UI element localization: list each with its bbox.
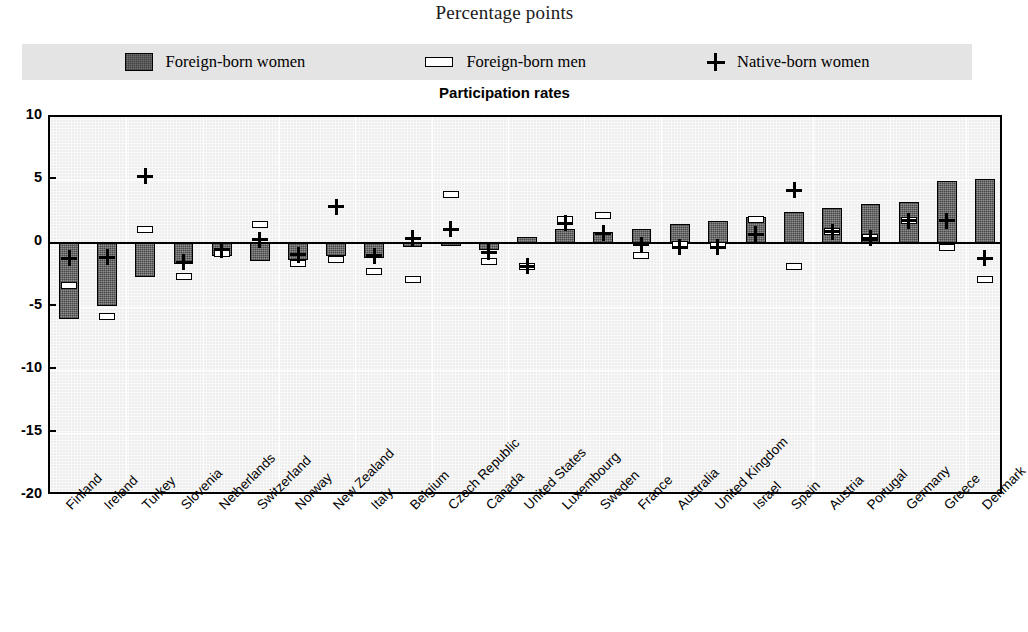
plus-marker-luxembourg	[557, 215, 573, 231]
dash-marker-finland	[61, 282, 77, 289]
chart-legend: Foreign-born womenForeign-born menNative…	[22, 44, 972, 80]
plus-marker-norway	[290, 247, 306, 263]
dash-marker-belgium	[405, 276, 421, 283]
dash-marker-sweden	[595, 212, 611, 219]
vertical-gridline	[966, 117, 967, 492]
horizontal-gridline	[50, 370, 1000, 371]
plus-marker-austria	[824, 224, 840, 240]
vertical-gridline	[890, 117, 891, 492]
filled-square-icon	[125, 53, 153, 71]
legend-item-label: Foreign-born women	[166, 52, 306, 72]
dash-marker-italy	[366, 268, 382, 275]
plus-marker-greece	[939, 213, 955, 229]
horizontal-gridline	[50, 180, 1000, 181]
unit-label: Percentage points	[0, 0, 1009, 26]
plus-marker-germany	[901, 213, 917, 229]
plus-marker-belgium	[405, 230, 421, 246]
plus-marker-denmark	[977, 250, 993, 266]
legend-item-1: Foreign-born men	[425, 52, 586, 72]
dash-marker-new-zealand	[328, 256, 344, 263]
y-tick-mark	[48, 367, 56, 369]
y-tick-label: -20	[0, 485, 42, 501]
y-tick-mark	[48, 430, 56, 432]
plus-marker-sweden	[595, 225, 611, 241]
bar-spain	[784, 212, 804, 244]
y-tick-mark	[48, 177, 56, 179]
vertical-gridline	[432, 117, 433, 492]
x-axis-labels: FinlandIrelandTurkeySloveniaNetherlandsS…	[48, 496, 1002, 626]
plus-marker-finland	[61, 250, 77, 266]
dash-marker-czech-republic	[443, 191, 459, 198]
plus-marker-australia	[672, 239, 688, 255]
legend-item-label: Foreign-born men	[466, 52, 586, 72]
plus-icon	[706, 52, 726, 72]
vertical-gridline	[279, 117, 280, 492]
plus-marker-united-kingdom	[710, 239, 726, 255]
vertical-gridline	[508, 117, 509, 492]
plus-marker-canada	[481, 244, 497, 260]
legend-item-0: Foreign-born women	[125, 52, 306, 72]
plus-marker-italy	[366, 248, 382, 264]
plus-marker-spain	[786, 182, 802, 198]
vertical-gridline	[126, 117, 127, 492]
y-tick-label: -10	[0, 359, 42, 375]
plus-marker-israel	[748, 226, 764, 242]
dash-marker-denmark	[977, 276, 993, 283]
bar-turkey	[135, 243, 155, 277]
dash-marker-israel	[748, 216, 764, 223]
dash-marker-greece	[939, 244, 955, 251]
plus-marker-ireland	[99, 249, 115, 265]
vertical-gridline	[813, 117, 814, 492]
y-tick-mark	[48, 304, 56, 306]
vertical-gridline	[355, 117, 356, 492]
dash-marker-slovenia	[176, 273, 192, 280]
dash-marker-spain	[786, 263, 802, 270]
zero-axis-line	[50, 242, 1000, 244]
bar-new-zealand	[326, 243, 346, 256]
y-tick-label: 10	[0, 106, 42, 122]
dash-marker-switzerland	[252, 221, 268, 228]
dash-icon	[425, 57, 453, 67]
plus-marker-turkey	[137, 168, 153, 184]
legend-item-2: Native-born women	[706, 52, 869, 72]
dash-marker-france	[633, 252, 649, 259]
bar-luxembourg	[555, 229, 575, 243]
plus-marker-united-states	[519, 258, 535, 274]
y-tick-label: 0	[0, 232, 42, 248]
vertical-gridline	[584, 117, 585, 492]
y-tick-label: -5	[0, 296, 42, 312]
y-tick-label: 5	[0, 169, 42, 185]
plus-marker-portugal	[862, 230, 878, 246]
vertical-gridline	[737, 117, 738, 492]
bar-denmark	[975, 179, 995, 243]
dash-marker-ireland	[99, 313, 115, 320]
y-tick-label: -15	[0, 422, 42, 438]
plus-marker-switzerland	[252, 232, 268, 248]
legend-item-label: Native-born women	[737, 52, 869, 72]
plot-area	[48, 115, 1002, 494]
plus-marker-czech-republic	[443, 221, 459, 237]
horizontal-gridline	[50, 307, 1000, 308]
horizontal-gridline	[50, 433, 1000, 434]
vertical-gridline	[661, 117, 662, 492]
dash-marker-turkey	[137, 226, 153, 233]
chart-title: Participation rates	[0, 84, 1009, 101]
plus-marker-slovenia	[176, 254, 192, 270]
vertical-gridline	[203, 117, 204, 492]
plus-marker-netherlands	[214, 242, 230, 258]
plus-marker-france	[633, 237, 649, 253]
plus-marker-new-zealand	[328, 199, 344, 215]
